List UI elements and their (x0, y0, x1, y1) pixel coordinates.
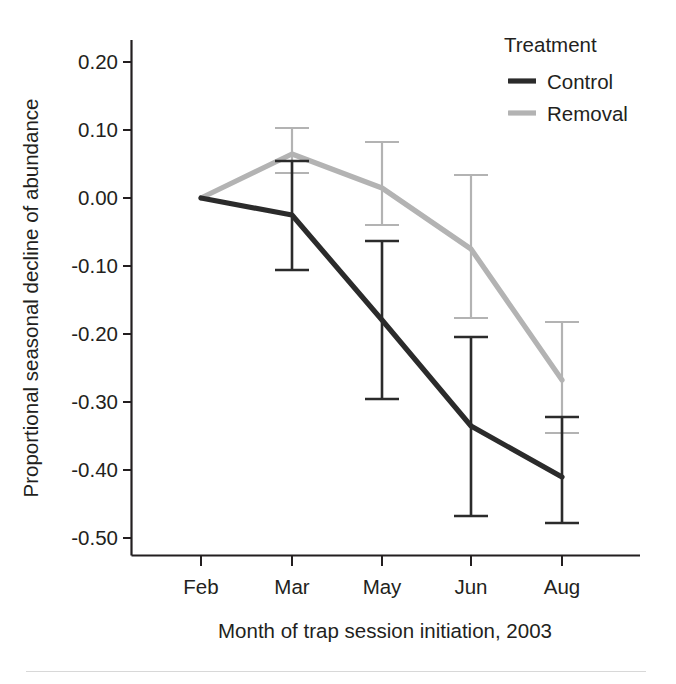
legend: Treatment Control Removal (504, 33, 628, 125)
figure-container: 0.20 0.10 0.00 -0.10 -0.20 -0.30 -0.40 -… (0, 0, 676, 684)
x-tick-label-mar: Mar (274, 575, 309, 598)
footer-divider (26, 671, 646, 672)
legend-title: Treatment (504, 33, 597, 56)
x-tick-labels: Feb Mar May Jun Aug (183, 575, 580, 598)
x-tick-label-feb: Feb (183, 575, 218, 598)
x-tick-marks (201, 556, 562, 567)
y-tick-marks (123, 62, 132, 538)
x-axis-title: Month of trap session initiation, 2003 (218, 619, 552, 642)
x-tick-label-jun: Jun (454, 575, 487, 598)
y-tick-label-7: -0.50 (71, 526, 118, 549)
line-chart: 0.20 0.10 0.00 -0.10 -0.20 -0.30 -0.40 -… (0, 0, 676, 684)
y-axis-title: Proportional seasonal decline of abundan… (19, 99, 42, 498)
y-tick-label-4: -0.20 (71, 322, 118, 345)
y-tick-label-6: -0.40 (71, 458, 118, 481)
y-tick-label-2: 0.00 (78, 186, 118, 209)
legend-label-removal[interactable]: Removal (547, 102, 628, 125)
x-tick-label-aug: Aug (544, 575, 580, 598)
y-tick-label-0: 0.20 (78, 50, 118, 73)
y-tick-label-5: -0.30 (71, 390, 118, 413)
y-tick-label-1: 0.10 (78, 118, 118, 141)
error-bars-removal (275, 128, 579, 433)
y-tick-labels: 0.20 0.10 0.00 -0.10 -0.20 -0.30 -0.40 -… (71, 50, 118, 549)
legend-label-control[interactable]: Control (547, 70, 613, 93)
x-tick-label-may: May (363, 575, 402, 598)
y-tick-label-3: -0.10 (71, 254, 118, 277)
